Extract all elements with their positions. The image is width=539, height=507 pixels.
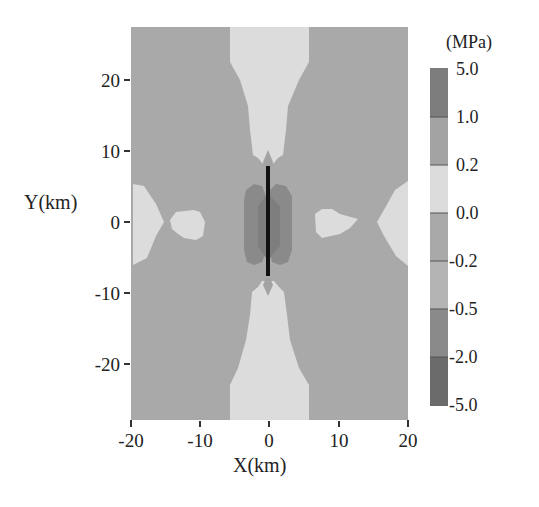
x-axis-title: X(km) [233,455,286,475]
x-tick-label: 10 [319,431,359,450]
x-tick-label: 20 [388,431,428,450]
y-tick-label: 10 [80,142,120,161]
colorbar-unit: (MPa) [446,32,492,53]
y-tick-label: 20 [80,71,120,90]
colorbar-level-label: 0.2 [456,156,479,174]
colorbar-level-label: -0.2 [449,252,478,270]
y-tick-label: 0 [80,213,120,232]
x-tick-label: -10 [180,431,220,450]
colorbar-level-label: -5.0 [449,396,478,414]
colorbar-level-label: -0.5 [449,300,478,318]
fault-line [266,166,270,276]
y-axis [124,80,130,364]
x-tick-label: -20 [111,431,151,450]
colorbar-level-label: -2.0 [449,348,478,366]
x-axis [131,420,408,427]
y-tick-label: -20 [80,355,120,374]
colorbar-level-label: 1.0 [456,108,479,126]
colorbar-level-label: 0.0 [456,204,479,222]
colorbar [430,68,448,406]
y-tick-label: -10 [80,284,120,303]
colorbar-level-label: 5.0 [456,60,479,78]
x-tick-label: 0 [249,431,289,450]
y-axis-title: Y(km) [24,192,77,212]
